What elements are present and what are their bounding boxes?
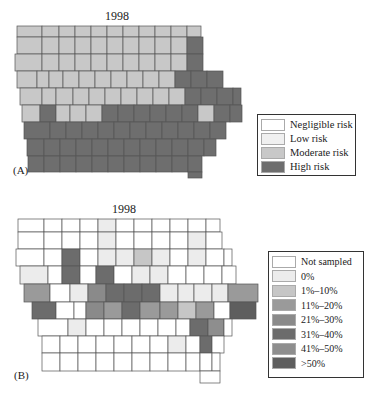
county bbox=[106, 284, 124, 302]
county bbox=[132, 266, 150, 284]
county bbox=[168, 336, 186, 353]
county bbox=[134, 232, 152, 249]
county bbox=[214, 302, 230, 319]
legend-swatch bbox=[272, 328, 296, 340]
county bbox=[194, 284, 212, 302]
county bbox=[56, 302, 74, 319]
county bbox=[98, 232, 116, 249]
county bbox=[200, 353, 212, 371]
county bbox=[18, 219, 44, 232]
county bbox=[170, 249, 188, 266]
county bbox=[68, 319, 86, 336]
county bbox=[178, 302, 196, 319]
county bbox=[38, 319, 68, 336]
county bbox=[150, 353, 168, 371]
percent-legend-item: Not sampled bbox=[272, 255, 360, 269]
county bbox=[44, 249, 62, 266]
county bbox=[188, 232, 206, 249]
county bbox=[48, 266, 62, 284]
county bbox=[80, 219, 98, 232]
county bbox=[104, 319, 122, 336]
legend-label: 41%–50% bbox=[301, 343, 343, 354]
county bbox=[114, 266, 132, 284]
county bbox=[116, 219, 134, 232]
county bbox=[134, 249, 152, 266]
legend-swatch bbox=[272, 299, 296, 311]
legend-label: 11%–20% bbox=[301, 300, 342, 311]
legend-swatch bbox=[272, 357, 296, 369]
county bbox=[186, 266, 204, 284]
county bbox=[104, 302, 122, 319]
county bbox=[96, 266, 114, 284]
county bbox=[32, 302, 56, 319]
county bbox=[70, 284, 88, 302]
county bbox=[140, 302, 160, 319]
county bbox=[122, 302, 140, 319]
county bbox=[178, 284, 194, 302]
county bbox=[186, 336, 200, 353]
legend-label: 31%–40% bbox=[301, 329, 343, 340]
legend-label: 21%–30% bbox=[301, 314, 343, 325]
county bbox=[152, 219, 170, 232]
county bbox=[206, 232, 222, 249]
percent-legend-item: 41%–50% bbox=[272, 342, 360, 356]
county bbox=[62, 266, 80, 284]
county bbox=[114, 353, 132, 371]
county bbox=[196, 302, 214, 319]
county bbox=[206, 249, 224, 266]
county bbox=[158, 319, 176, 336]
county bbox=[60, 353, 78, 371]
county bbox=[132, 336, 150, 353]
county bbox=[86, 319, 104, 336]
county bbox=[200, 371, 220, 383]
county bbox=[80, 266, 96, 284]
county bbox=[142, 284, 160, 302]
county bbox=[132, 353, 150, 371]
county bbox=[224, 319, 232, 336]
county bbox=[122, 319, 140, 336]
county bbox=[98, 249, 116, 266]
county bbox=[222, 266, 236, 284]
panel-b-label: (B) bbox=[14, 369, 29, 381]
county bbox=[98, 219, 116, 232]
legend-swatch bbox=[272, 343, 296, 355]
county bbox=[44, 219, 62, 232]
county bbox=[74, 302, 86, 319]
legend-label: 1%–10% bbox=[301, 285, 338, 296]
county bbox=[18, 232, 44, 249]
county bbox=[200, 336, 212, 353]
county bbox=[228, 284, 258, 302]
county bbox=[116, 249, 134, 266]
county bbox=[78, 336, 96, 353]
county bbox=[204, 266, 222, 284]
county bbox=[16, 249, 44, 266]
percent-legend-item: 31%–40% bbox=[272, 328, 360, 342]
county bbox=[96, 353, 114, 371]
county bbox=[62, 232, 80, 249]
percent-legend-item: 21%–30% bbox=[272, 313, 360, 327]
county bbox=[96, 336, 114, 353]
county bbox=[24, 284, 50, 302]
percent-legend-item: 1%–10% bbox=[272, 284, 360, 298]
county bbox=[88, 284, 106, 302]
county bbox=[206, 219, 220, 232]
percent-legend-item: 0% bbox=[272, 270, 360, 284]
county bbox=[86, 302, 104, 319]
county bbox=[44, 232, 62, 249]
legend-label: Not sampled bbox=[301, 256, 352, 267]
county bbox=[50, 284, 70, 302]
county bbox=[160, 302, 178, 319]
county bbox=[212, 353, 220, 371]
legend-swatch bbox=[272, 256, 296, 268]
county bbox=[188, 249, 206, 266]
county bbox=[140, 319, 158, 336]
legend-percent: Not sampled0%1%–10%11%–20%21%–30%31%–40%… bbox=[268, 251, 364, 378]
county bbox=[80, 232, 98, 249]
county bbox=[62, 219, 80, 232]
county bbox=[170, 219, 188, 232]
county bbox=[212, 284, 228, 302]
county bbox=[170, 232, 188, 249]
legend-label: 0% bbox=[301, 271, 314, 282]
county bbox=[124, 284, 142, 302]
percent-legend-item: 11%–20% bbox=[272, 299, 360, 313]
